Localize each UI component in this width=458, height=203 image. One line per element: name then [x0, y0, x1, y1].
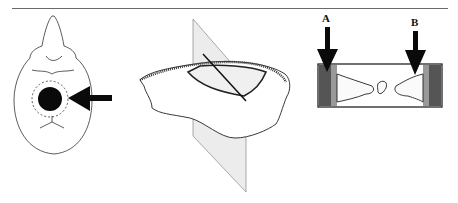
label-b: B [411, 16, 418, 28]
label-a: A [322, 12, 330, 24]
skull-fragment-section [140, 19, 290, 192]
craniotomy-disc [38, 87, 62, 111]
skull-top-view [14, 16, 92, 154]
bone-cross-section [318, 64, 442, 107]
cortex-right [429, 65, 441, 106]
cortex-left [319, 65, 331, 106]
figure-canvas [0, 0, 458, 203]
arrow-icon [68, 86, 112, 111]
